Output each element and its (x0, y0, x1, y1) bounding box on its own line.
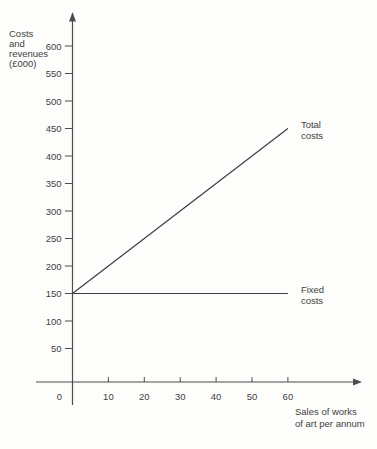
y-tick-label: 450 (46, 123, 62, 134)
x-tick-label: 50 (247, 391, 258, 402)
x-tick-label: 20 (139, 391, 150, 402)
y-tick-label: 200 (46, 261, 62, 272)
y-tick-label: 50 (51, 343, 62, 354)
fixed-costs-label: Fixed costs (301, 284, 324, 306)
x-tick-label: 40 (211, 391, 222, 402)
x-tick-label: 0 (57, 391, 62, 402)
x-tick-label: 60 (283, 391, 294, 402)
y-tick-label: 350 (46, 178, 62, 189)
y-tick-label: 100 (46, 316, 62, 327)
y-tick-label: 250 (46, 233, 62, 244)
plot-area: 5010015020025030035040045050055060001020… (0, 0, 377, 449)
x-tick-label: 30 (175, 391, 186, 402)
cost-volume-chart: Costs and revenues (£000) 50100150200250… (0, 0, 377, 449)
y-tick-label: 550 (46, 68, 62, 79)
x-axis-arrowhead-icon (353, 379, 362, 386)
y-tick-label: 300 (46, 206, 62, 217)
x-axis-title: Sales of works of art per annum (295, 406, 365, 430)
y-tick-label: 600 (46, 41, 62, 52)
y-axis-arrowhead-icon (69, 12, 76, 22)
x-tick-label: 10 (103, 391, 114, 402)
y-tick-label: 500 (46, 96, 62, 107)
y-tick-label: 150 (46, 288, 62, 299)
y-tick-label: 400 (46, 151, 62, 162)
total-costs-line (73, 129, 288, 294)
total-costs-label: Total costs (301, 119, 323, 141)
